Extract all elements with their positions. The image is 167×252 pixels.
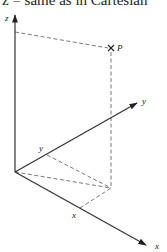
x-axis-label: x	[154, 241, 159, 251]
dashed-y-projection-line	[47, 155, 111, 188]
dashed-top-line	[15, 32, 108, 48]
dashed-x-projection-line	[80, 188, 111, 208]
x-projection-label: x	[71, 210, 76, 220]
point-p-marker	[108, 45, 114, 51]
y-projection-label: y	[38, 143, 43, 153]
z-axis-label: z	[4, 13, 9, 23]
point-p-label: P	[116, 43, 123, 53]
y-axis-label: y	[141, 96, 146, 106]
coordinate-diagram: z y x P y x	[0, 0, 167, 252]
y-axis	[15, 103, 137, 172]
